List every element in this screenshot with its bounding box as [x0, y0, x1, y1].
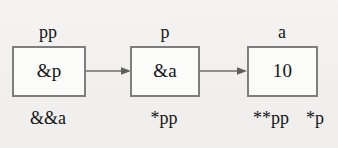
node-pp-value: &p — [37, 61, 62, 80]
node-a-value: 10 — [273, 61, 292, 80]
node-p-top-label: p — [161, 23, 170, 41]
node-p-bottom-label-0: *pp — [151, 109, 178, 127]
node-p-value: &a — [153, 61, 177, 80]
node-a-top-label: a — [278, 23, 286, 41]
node-p-box: &a — [130, 46, 200, 97]
node-pp-top-label: pp — [39, 23, 57, 41]
node-pp-bottom-label-0: &&a — [30, 109, 66, 127]
node-pp-box: &p — [12, 46, 86, 97]
node-a-bottom-label-1: *p — [306, 109, 324, 127]
arrow-p-to-a-icon — [200, 66, 247, 76]
arrow-pp-to-p-icon — [86, 66, 131, 76]
node-a-bottom-label-0: **pp — [253, 109, 289, 127]
pointer-chain-diagram: pp &p &&a p &a *pp a 10 **pp *p — [0, 0, 338, 148]
node-a-box: 10 — [247, 46, 318, 97]
